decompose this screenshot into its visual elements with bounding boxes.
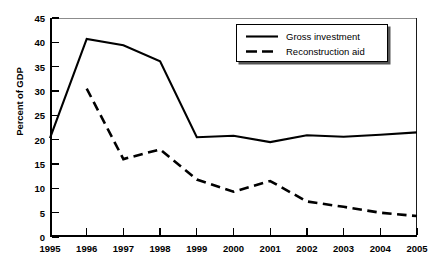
x-tick-label-1997: 1997 (113, 243, 134, 254)
x-tick-label-2002: 2002 (296, 243, 317, 254)
y-tick-label-20: 20 (34, 134, 45, 145)
legend-item-reconstruction-aid: Reconstruction aid (245, 44, 381, 59)
x-tick-label-2001: 2001 (260, 243, 281, 254)
y-tick-label-45: 45 (34, 13, 45, 24)
y-axis-title: Percent of GDP (14, 47, 25, 157)
chart-container: Percent of GDP 051015202530354045 199519… (0, 0, 434, 273)
legend-solid-line-icon (245, 31, 279, 42)
x-tick-label-2004: 2004 (370, 243, 391, 254)
x-tick-label-1998: 1998 (150, 243, 171, 254)
y-tick-label-25: 25 (34, 110, 45, 121)
y-tick-label-40: 40 (34, 37, 45, 48)
y-tick-label-5: 5 (40, 207, 45, 218)
series-line-reconstruction-aid (87, 89, 417, 217)
y-tick-label-30: 30 (34, 86, 45, 97)
x-tick-label-1995: 1995 (39, 243, 60, 254)
legend-dashed-line-icon (245, 46, 279, 57)
x-tick-label-1999: 1999 (186, 243, 207, 254)
y-tick-label-35: 35 (34, 61, 45, 72)
x-tick-label-2003: 2003 (333, 243, 354, 254)
legend-label-gross-investment: Gross investment (286, 31, 360, 42)
x-tick-label-2005: 2005 (406, 243, 427, 254)
legend-label-reconstruction-aid: Reconstruction aid (286, 46, 365, 57)
legend-item-gross-investment: Gross investment (245, 29, 381, 44)
y-tick-label-0: 0 (40, 232, 45, 243)
x-tick-label-1996: 1996 (76, 243, 97, 254)
x-tick-label-2000: 2000 (223, 243, 244, 254)
chart-legend: Gross investment Reconstruction aid (236, 24, 388, 62)
y-tick-label-15: 15 (34, 159, 45, 170)
y-tick-label-10: 10 (34, 183, 45, 194)
